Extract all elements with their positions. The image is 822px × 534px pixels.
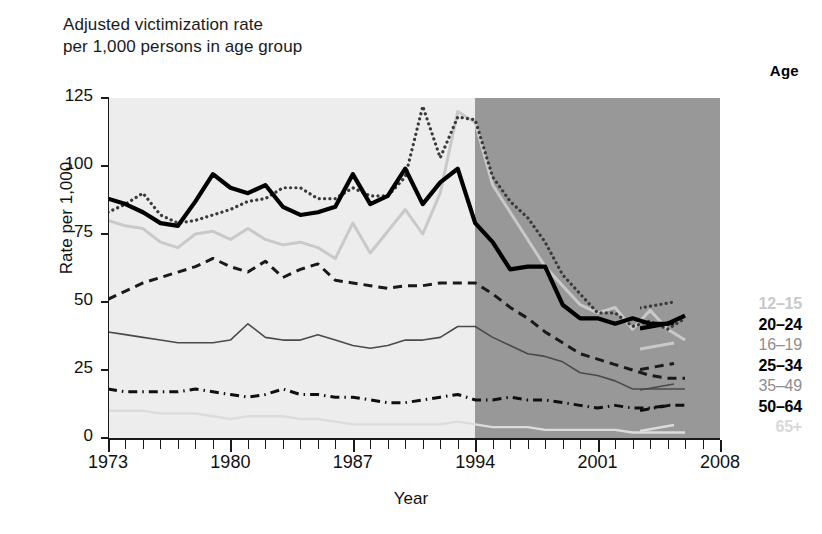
x-tick — [423, 440, 424, 449]
x-tick — [563, 440, 564, 449]
chart-title-line1: Adjusted victimization rate — [63, 14, 263, 36]
y-tick — [101, 97, 109, 99]
x-tick — [160, 440, 161, 449]
x-tick — [615, 440, 616, 449]
y-tick — [101, 437, 109, 439]
x-tick — [195, 440, 196, 449]
x-tick — [405, 440, 406, 449]
x-tick — [440, 440, 441, 449]
x-tick — [353, 440, 355, 452]
x-tick-label: 2008 — [685, 452, 755, 473]
y-axis-line — [108, 98, 109, 438]
y-tick — [101, 301, 109, 303]
series-line-12-15 — [108, 106, 685, 329]
x-tick — [633, 440, 634, 449]
x-tick — [248, 440, 249, 449]
legend-item-20-24: 20–24 — [759, 316, 803, 334]
x-tick — [598, 440, 600, 452]
y-tick — [101, 233, 109, 235]
legend-item-16-19: 16–19 — [759, 336, 803, 354]
x-tick-label: 1980 — [195, 452, 265, 473]
series-line-65+ — [108, 411, 685, 433]
x-tick — [213, 440, 214, 449]
y-tick-label: 25 — [27, 358, 93, 378]
x-tick — [335, 440, 336, 449]
x-tick — [143, 440, 144, 449]
series-line-35-49 — [108, 324, 685, 389]
chart-figure: Adjusted victimization rate per 1,000 pe… — [0, 0, 822, 534]
series-line-16-19 — [108, 112, 685, 340]
x-tick — [493, 440, 494, 449]
x-tick — [178, 440, 179, 449]
legend-item-35-49: 35–49 — [759, 377, 803, 395]
legend-key-35-49 — [640, 384, 674, 390]
y-tick-label: 75 — [27, 222, 93, 242]
x-tick — [108, 440, 110, 452]
x-tick — [230, 440, 232, 452]
x-tick-label: 1973 — [73, 452, 143, 473]
legend-key-16-19 — [640, 343, 674, 349]
x-tick — [475, 440, 477, 452]
x-tick — [125, 440, 126, 449]
legend-item-12-15: 12–15 — [759, 295, 803, 313]
series-line-50-64 — [108, 389, 685, 408]
legend-header: Age — [770, 62, 799, 79]
x-tick — [388, 440, 389, 449]
legend-key-12-15 — [640, 302, 674, 308]
x-tick — [283, 440, 284, 449]
y-tick-label: 0 — [27, 426, 93, 446]
x-tick — [545, 440, 546, 449]
x-tick — [300, 440, 301, 449]
y-tick — [101, 165, 109, 167]
legend-item-50-64: 50–64 — [759, 398, 803, 416]
x-tick — [265, 440, 266, 449]
legend-item-25-34: 25–34 — [759, 357, 803, 375]
x-tick — [510, 440, 511, 449]
legend-key-25-34 — [640, 364, 674, 370]
legend-key-65+ — [640, 425, 674, 431]
x-tick-label: 2001 — [563, 452, 633, 473]
x-axis-label: Year — [0, 489, 822, 509]
legend-key-50-64 — [640, 405, 674, 411]
x-tick — [318, 440, 319, 449]
x-tick — [528, 440, 529, 449]
x-tick — [458, 440, 459, 449]
x-axis-line — [108, 438, 720, 440]
x-tick — [580, 440, 581, 449]
legend-key-lines — [640, 290, 720, 450]
legend-key-20-24 — [640, 323, 674, 329]
y-tick-label: 50 — [27, 290, 93, 310]
x-tick-label: 1994 — [440, 452, 510, 473]
legend-item-65+: 65+ — [775, 418, 802, 436]
series-lines — [108, 98, 720, 438]
x-tick-label: 1987 — [318, 452, 388, 473]
y-tick — [101, 369, 109, 371]
y-tick-label: 100 — [27, 154, 93, 174]
chart-title-line2: per 1,000 persons in age group — [63, 36, 302, 58]
plot-area — [108, 98, 720, 438]
y-tick-label: 125 — [27, 86, 93, 106]
series-line-20-24 — [108, 169, 685, 324]
x-tick — [720, 440, 722, 452]
x-tick — [370, 440, 371, 449]
